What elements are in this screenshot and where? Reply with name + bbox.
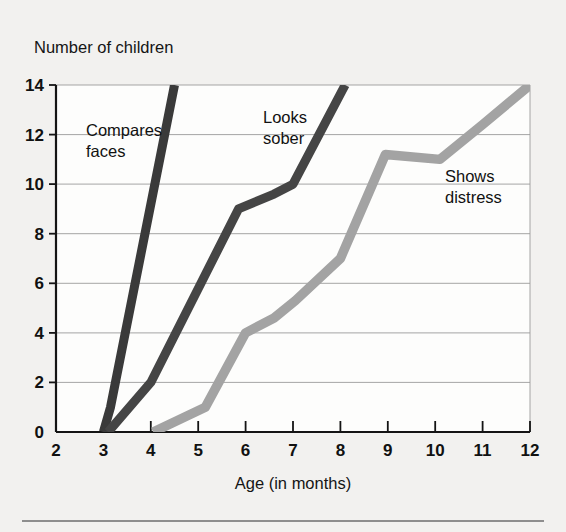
x-tick-label: 3: [99, 441, 108, 460]
annotation-compares-faces-line1: Compares: [86, 121, 162, 139]
y-tick-label: 6: [35, 274, 44, 293]
y-tick-label: 2: [35, 373, 44, 392]
y-tick-label: 8: [35, 225, 44, 244]
y-tick-label: 4: [35, 324, 45, 343]
y-tick-label: 10: [25, 175, 44, 194]
x-tick-label: 9: [383, 441, 392, 460]
annotation-looks-sober-line2: sober: [263, 129, 305, 147]
x-tick-label: 12: [521, 441, 540, 460]
x-tick-label: 2: [51, 441, 60, 460]
annotation-compares-faces-line2: faces: [86, 142, 125, 160]
line-chart: Number of children: [0, 0, 566, 532]
x-tick-label: 7: [288, 441, 297, 460]
x-tick-label: 10: [426, 441, 445, 460]
x-tick-label: 11: [474, 441, 492, 460]
x-tick-label: 6: [241, 441, 250, 460]
annotation-shows-distress-line1: Shows: [445, 167, 495, 185]
x-tick-label: 8: [336, 441, 345, 460]
x-tick-label: 5: [193, 441, 202, 460]
chart-figure: Number of children: [0, 0, 566, 532]
y-tick-label: 12: [25, 126, 44, 145]
annotation-looks-sober-line1: Looks: [263, 108, 307, 126]
x-tick-label: 4: [146, 441, 156, 460]
y-tick-label: 14: [25, 76, 44, 95]
y-axis-title: Number of children: [34, 38, 173, 56]
annotation-shows-distress-line2: distress: [445, 188, 502, 206]
y-tick-label: 0: [35, 423, 44, 442]
x-axis-title: Age (in months): [235, 474, 351, 492]
